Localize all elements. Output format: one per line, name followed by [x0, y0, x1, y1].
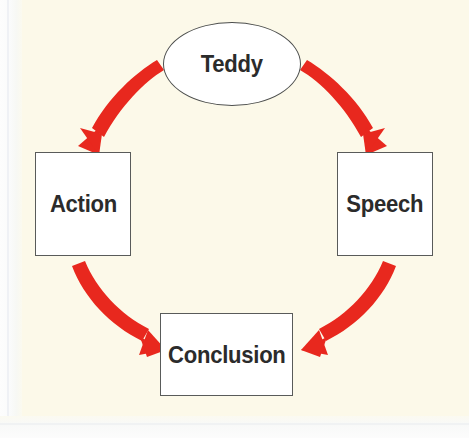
scan-edge-left-line — [7, 0, 9, 438]
scan-edge-left — [0, 0, 22, 438]
node-teddy[interactable]: Teddy — [163, 22, 301, 106]
node-action[interactable]: Action — [35, 152, 131, 256]
node-conclusion[interactable]: Conclusion — [160, 313, 293, 396]
scan-edge-bottom-line — [0, 423, 469, 425]
node-action-label: Action — [49, 192, 116, 216]
scan-edge-bottom — [0, 416, 469, 438]
node-teddy-label: Teddy — [201, 52, 263, 76]
node-speech-label: Speech — [347, 192, 424, 216]
node-conclusion-label: Conclusion — [168, 343, 285, 367]
diagram-canvas: Teddy Action Speech Conclusion — [0, 0, 469, 438]
node-speech[interactable]: Speech — [337, 152, 433, 256]
